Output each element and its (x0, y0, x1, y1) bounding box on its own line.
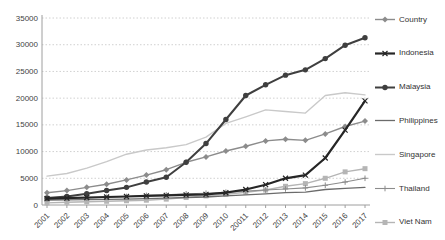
legend-item-singapore: Singapore (374, 149, 445, 160)
x-axis-tick-label: 2002 (52, 211, 71, 230)
y-axis-tick-label: 30000 (16, 40, 39, 49)
diamond-marker (104, 181, 110, 187)
circle-marker (144, 179, 149, 184)
diamond-marker (362, 118, 368, 124)
diamond-marker (84, 184, 90, 190)
circle-marker (323, 56, 328, 61)
legend-marker-diamond-icon (374, 15, 396, 24)
diamond-marker (203, 154, 209, 160)
circle-marker (104, 188, 109, 193)
x-axis-tick-label: 2006 (132, 211, 151, 230)
x-axis-tick-label: 20011 (228, 211, 250, 233)
legend-item-indonesia: Indonesia (374, 48, 445, 59)
legend-marker-circle-icon (374, 83, 396, 92)
legend-marker-plus-icon (374, 184, 396, 193)
x-axis-tick-label: 2001 (32, 211, 51, 230)
circle-marker (342, 43, 347, 48)
diamond-marker (223, 148, 229, 154)
legend-item-thailand: Thailand (374, 183, 445, 194)
legend-marker-square-icon (374, 218, 396, 227)
y-axis-tick-label: 20000 (16, 94, 39, 103)
circle-marker (124, 185, 129, 190)
series-line-malaysia (47, 38, 365, 198)
legend-label: Thailand (399, 185, 430, 193)
legend-label: Indonesia (399, 49, 434, 57)
legend-item-viet-nam: Viet Nam (374, 217, 445, 228)
plus-marker (322, 182, 328, 188)
x-axis-tick-label: 2003 (72, 211, 91, 230)
x-axis-tick-label: 2013 (271, 211, 290, 230)
circle-marker (303, 67, 308, 72)
diamond-marker (44, 190, 50, 196)
x-axis-tick-label: 2005 (112, 211, 131, 230)
chart-legend: CountryIndonesiaMalaysiaPhilippinesSinga… (374, 14, 445, 228)
series-line-indonesia (47, 101, 365, 199)
legend-marker-none-icon (374, 150, 396, 159)
square-marker (323, 176, 328, 181)
diamond-marker (243, 143, 249, 149)
diamond-marker (124, 177, 130, 183)
plus-marker (362, 175, 368, 181)
legend-label: Singapore (399, 151, 435, 159)
circle-marker (223, 117, 228, 122)
x-axis-tick-label: 2009 (191, 211, 210, 230)
square-marker (363, 166, 368, 171)
circle-marker (183, 160, 188, 165)
circle-marker (283, 72, 288, 77)
y-axis-tick-label: 25000 (16, 67, 39, 76)
diamond-marker (322, 131, 328, 137)
diamond-marker (64, 188, 70, 194)
circle-marker (243, 93, 248, 98)
circle-marker (164, 175, 169, 180)
x-axis-tick-label: 2007 (152, 211, 171, 230)
x-axis-tick-label: 2008 (172, 211, 191, 230)
diamond-marker (283, 136, 289, 142)
legend-item-philippines: Philippines (374, 115, 445, 126)
x-axis-tick-label: 2010 (211, 211, 230, 230)
diamond-marker (143, 172, 149, 178)
legend-label: Viet Nam (399, 218, 432, 226)
circle-marker (362, 35, 367, 40)
x-axis-tick-label: 2014 (291, 211, 310, 230)
legend-label: Philippines (399, 117, 438, 125)
x-axis-tick-label: 2016 (331, 211, 350, 230)
legend-marker-none-icon (374, 116, 396, 125)
plus-marker (342, 179, 348, 185)
diamond-marker (302, 137, 308, 143)
circle-marker (203, 141, 208, 146)
legend-item-malaysia: Malaysia (374, 82, 445, 93)
x-axis-tick-label: 2012 (251, 211, 270, 230)
x-axis-tick-label: 2004 (92, 211, 111, 230)
y-axis-tick-label: 35000 (16, 14, 39, 23)
y-axis-tick-label: 10000 (16, 147, 39, 156)
chart-container: 0500010000150002000025000300003500020012… (0, 0, 445, 240)
diamond-marker (163, 167, 169, 173)
y-axis-tick-label: 15000 (16, 120, 39, 129)
circle-marker (263, 82, 268, 87)
legend-label: Country (399, 16, 427, 24)
y-axis-tick-label: 0 (34, 201, 39, 210)
square-marker (343, 169, 348, 174)
legend-item-country: Country (374, 14, 445, 25)
diamond-marker (263, 138, 269, 144)
x-axis-tick-label: 2017 (350, 211, 369, 230)
x-axis-tick-label: 2015 (311, 211, 330, 230)
y-axis-tick-label: 5000 (20, 174, 38, 183)
legend-label: Malaysia (399, 83, 431, 91)
legend-marker-x-icon (374, 49, 396, 58)
